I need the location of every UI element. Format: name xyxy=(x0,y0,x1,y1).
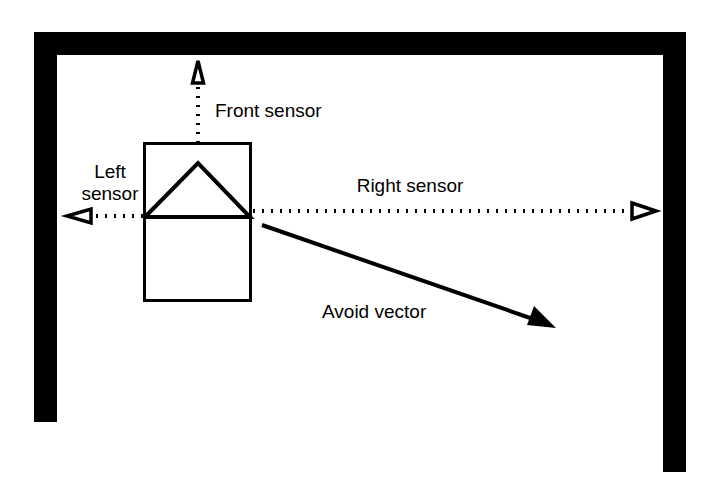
front-sensor-arrowhead-icon xyxy=(193,61,204,83)
diagram-canvas: Front sensor Left sensor Right sensor Av… xyxy=(0,0,723,490)
wall-group xyxy=(34,32,686,472)
left-sensor-label-line2: sensor xyxy=(81,183,139,204)
robot-group xyxy=(145,144,251,301)
avoid-vector-group: Avoid vector xyxy=(262,225,556,328)
robot-body-rectangle xyxy=(145,144,251,301)
right-wall xyxy=(663,32,686,472)
avoid-vector-arrowhead-icon xyxy=(527,306,556,328)
front-sensor-group: Front sensor xyxy=(193,61,323,143)
left-sensor-label-line1: Left xyxy=(94,161,126,182)
robot-obstacle-avoidance-diagram: Front sensor Left sensor Right sensor Av… xyxy=(0,0,723,490)
left-wall xyxy=(34,32,57,422)
avoid-vector-label: Avoid vector xyxy=(322,301,427,322)
right-sensor-arrowhead-icon xyxy=(632,203,656,219)
top-wall xyxy=(34,32,686,55)
front-sensor-label: Front sensor xyxy=(215,100,322,121)
left-sensor-arrowhead-icon xyxy=(67,209,91,223)
right-sensor-group: Right sensor xyxy=(253,175,656,219)
left-sensor-group: Left sensor xyxy=(67,161,143,223)
robot-heading-triangle xyxy=(145,163,250,217)
right-sensor-label: Right sensor xyxy=(357,175,464,196)
